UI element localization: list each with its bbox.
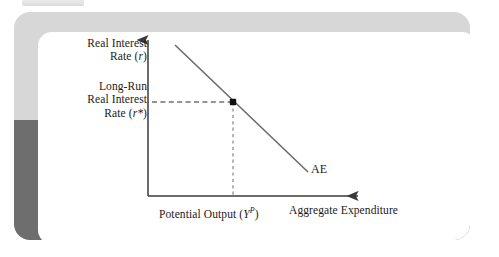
longrun-label-line3-post: ) <box>143 107 147 119</box>
ae-curve-label: AE <box>311 163 327 176</box>
longrun-label-line1: Long-Run <box>99 80 147 92</box>
longrun-label-var: r* <box>133 107 143 119</box>
longrun-label-line2: Real Interest <box>87 93 147 105</box>
ae-curve <box>175 45 308 172</box>
equilibrium-point-marker <box>230 99 236 105</box>
y-axis-label-longrun-rate: Long-Run Real Interest Rate (r*) <box>87 80 147 120</box>
y-axis-label-rate-line2-post: ) <box>143 50 147 62</box>
longrun-label-line3-pre: Rate ( <box>104 107 132 119</box>
potential-output-post: ) <box>255 208 259 220</box>
x-axis-label-potential-output: Potential Output (YP) <box>159 204 259 221</box>
potential-output-pre: Potential Output ( <box>159 208 243 220</box>
y-axis-label-rate-line2-pre: Rate ( <box>110 50 138 62</box>
y-axis-label-rate: Real Interest Rate (r) <box>87 37 147 64</box>
y-axis-label-rate-line1: Real Interest <box>87 37 147 49</box>
figure-stage: Real Interest Rate (r) Long-Run Real Int… <box>0 0 499 257</box>
x-axis-label-aggregate-expenditure: Aggregate Expenditure <box>289 204 398 217</box>
